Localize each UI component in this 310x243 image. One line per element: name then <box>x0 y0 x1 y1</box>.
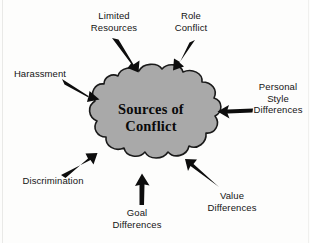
arrow-role-conflict <box>173 40 195 71</box>
arrow-limited-resources <box>112 38 140 73</box>
label-goal-differences: Goal Differences <box>103 207 171 230</box>
label-discrimination: Discrimination <box>12 175 94 187</box>
arrow-value-differences <box>185 159 219 187</box>
label-role-conflict: Role Conflict <box>160 10 222 33</box>
label-personal-style-differences: Personal Style Differences <box>248 81 308 116</box>
cloud-title: Sources of Conflict <box>92 101 210 134</box>
conflict-sources-diagram: Sources of Conflict Limited Resources Ro… <box>0 0 310 243</box>
label-harassment: Harassment <box>4 68 76 80</box>
label-limited-resources: Limited Resources <box>80 10 148 33</box>
arrow-goal-differences <box>135 174 150 206</box>
label-value-differences: Value Differences <box>198 190 266 213</box>
